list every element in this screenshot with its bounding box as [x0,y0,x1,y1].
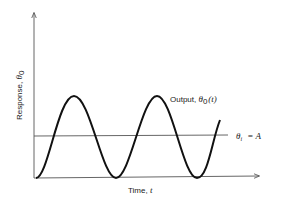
curve-label: Output, θ0(t) [170,94,217,106]
x-axis-label: Time, t [128,185,153,195]
response-diagram: Response, θ0 Time, t Output, θ0(t) θi = … [0,0,281,201]
y-axis-label: Response, θ0 [14,70,26,120]
reference-label: θi = A [236,131,262,142]
x-axis [34,176,259,178]
output-curve [36,96,220,178]
reference-line [34,135,228,136]
